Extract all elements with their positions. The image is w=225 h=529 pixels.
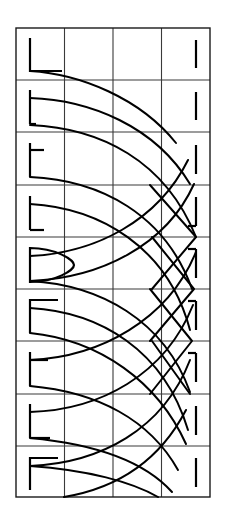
figure-root (0, 0, 225, 529)
grid-curve-diagram (0, 0, 225, 529)
